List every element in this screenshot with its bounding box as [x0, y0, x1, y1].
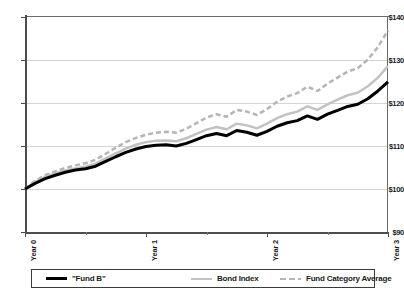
series-layer: [25, 17, 388, 232]
series-line-fund-category-average: [25, 30, 388, 189]
legend-swatch-icon-1: [191, 273, 212, 284]
legend-label-0: "Fund B": [72, 274, 106, 283]
legend-swatch-icon-2: [280, 273, 301, 284]
x-tick-minor-0.5: [86, 232, 87, 235]
x-axis-label-year-3: Year 3: [392, 240, 401, 261]
x-tick-1: [146, 232, 147, 237]
x-axis-label-year-1: Year 1: [150, 240, 159, 261]
legend-swatch-icon-0: [46, 273, 67, 284]
legend-label-2: Fund Category Average: [306, 274, 391, 283]
chart-legend: "Fund B"Bond IndexFund Category Average: [31, 269, 375, 288]
x-tick-minor-1.5: [207, 232, 208, 235]
legend-item-0[interactable]: "Fund B": [46, 270, 106, 287]
legend-label-1: Bond Index: [217, 274, 259, 283]
series-line-fund-b: [25, 82, 388, 189]
x-tick-2: [267, 232, 268, 237]
x-axis-label-year-0: Year 0: [29, 240, 38, 261]
legend-item-1[interactable]: Bond Index: [191, 270, 259, 287]
x-tick-3: [388, 232, 389, 237]
growth-of-investment-chart: $140$130$120$110$100$90 Year 0Year 1Year…: [0, 0, 404, 292]
plot-area: [25, 17, 388, 232]
x-tick-0: [25, 232, 26, 237]
x-tick-minor-2.5: [328, 232, 329, 235]
x-axis-label-year-2: Year 2: [271, 240, 280, 261]
legend-item-2[interactable]: Fund Category Average: [280, 270, 391, 287]
